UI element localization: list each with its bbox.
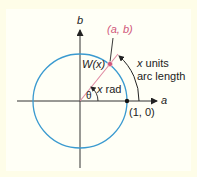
unit-point-dot [125,99,129,103]
wrapping-function-label: W(x) [82,58,106,70]
unit-circle-diagram: b a (a, b) W(x) θ x rad x units arc leng… [0,0,197,177]
unit-point-label: (1, 0) [129,106,155,118]
theta-label: θ [86,90,92,101]
a-axis-label: a [161,94,167,106]
point-ab-label: (a, b) [107,23,133,35]
arc-length-label-line1: x units [136,57,169,69]
wrapping-function-text: W(x) [82,58,106,70]
angle-rad-label: x rad [96,83,121,95]
point-leader-line [110,38,113,62]
b-axis-label: b [77,14,83,26]
arc-length-label-line2: arc length [137,70,185,82]
angle-rad-unit: rad [103,83,122,95]
arc-length-units: units [143,57,170,69]
point-ab-dot [107,61,112,66]
